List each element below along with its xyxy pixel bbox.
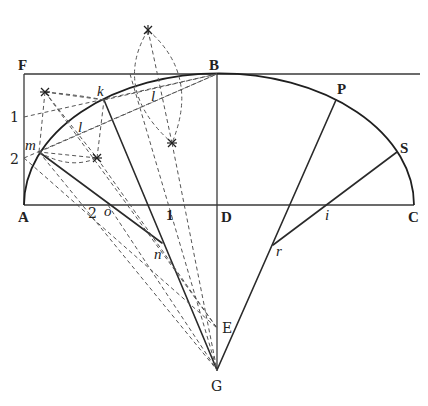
label-base-2: 2 [88,205,97,221]
label-e: E [222,320,232,336]
label-g: G [211,378,222,394]
joint-m-n [39,152,162,243]
label-side-1: 1 [10,109,19,125]
label-d: D [221,209,232,225]
joint-lines [39,100,397,370]
joint-s-r [273,152,397,245]
label-c: C [408,209,419,225]
label-f: F [18,57,27,73]
star-lower-right-icon [167,139,177,147]
label-n: n [154,246,162,262]
label-l-left: l [78,119,82,135]
label-side-2: 2 [10,151,19,167]
label-s: S [400,140,408,156]
label-b: B [209,57,219,73]
joint-k-g [104,100,217,370]
label-base-1: 1 [166,207,174,223]
label-p: P [337,81,346,97]
point-labels: F B P S A C D E G k l l m n o r i 1 2 2 … [10,57,419,394]
label-m: m [25,137,36,153]
label-l-upper: l [151,88,155,104]
label-r: r [276,243,282,259]
joint-p-g [217,100,336,370]
label-o: o [104,203,112,219]
arch-construction-diagram: F B P S A C D E G k l l m n o r i 1 2 2 … [0,0,428,406]
label-a: A [18,209,29,225]
label-i: i [325,207,329,223]
elliptic-arch [24,73,414,205]
star-top-icon [144,25,152,35]
construction-lines [24,30,217,370]
label-k: k [97,83,104,99]
